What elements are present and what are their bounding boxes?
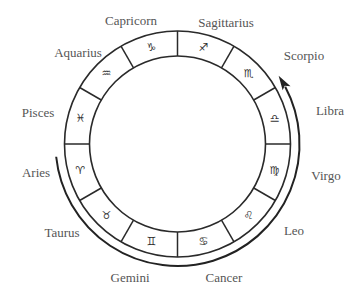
segment-divider (222, 220, 235, 242)
inner-ring (90, 56, 266, 232)
segment-divider (254, 188, 276, 201)
sign-label-gemini: Gemini (111, 271, 150, 284)
segment-divider (80, 188, 102, 201)
sign-label-libra: Libra (316, 104, 344, 117)
segment-dividers (65, 31, 291, 257)
leo-symbol-icon: ♌︎ (244, 210, 254, 221)
sign-label-taurus: Taurus (44, 226, 79, 239)
aries-symbol-icon: ♈︎ (75, 165, 85, 176)
virgo-symbol-icon: ♍︎ (270, 165, 280, 176)
segment-divider (80, 88, 102, 101)
sign-label-pisces: Pisces (22, 106, 55, 119)
segment-divider (121, 220, 134, 242)
sign-label-virgo: Virgo (311, 169, 340, 182)
cancer-symbol-icon: ♋︎ (199, 236, 209, 247)
sign-label-capricorn: Capricorn (105, 14, 157, 27)
segment-divider (121, 46, 134, 68)
segment-divider (222, 46, 235, 68)
sagittarius-symbol-icon: ♐︎ (199, 41, 209, 52)
sign-label-leo: Leo (284, 224, 304, 237)
libra-symbol-icon: ♎︎ (270, 112, 280, 123)
sign-label-sagittarius: Sagittarius (198, 16, 254, 29)
gemini-symbol-icon: ♊︎ (147, 236, 157, 247)
capricorn-symbol-icon: ♑︎ (147, 41, 157, 52)
taurus-symbol-icon: ♉︎ (101, 210, 111, 221)
arrow-head-icon (279, 76, 291, 91)
sign-label-scorpio: Scorpio (284, 49, 324, 62)
sign-label-cancer: Cancer (206, 271, 243, 284)
sign-label-aquarius: Aquarius (54, 46, 102, 59)
scorpio-symbol-icon: ♏︎ (244, 67, 254, 78)
aquarius-symbol-icon: ♒︎ (101, 67, 111, 78)
outer-ring (65, 31, 291, 257)
segment-divider (254, 88, 276, 101)
sign-label-aries: Aries (22, 166, 50, 179)
pisces-symbol-icon: ♓︎ (75, 112, 85, 123)
